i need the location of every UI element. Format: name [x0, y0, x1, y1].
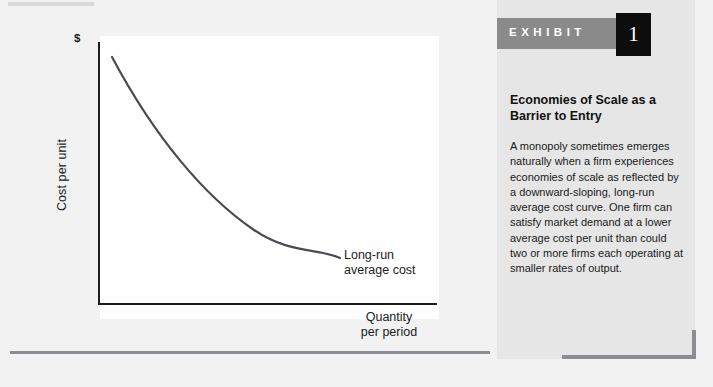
- exhibit-title: Economies of Scale as a Barrier to Entry: [510, 92, 680, 124]
- exhibit-body-text: A monopoly sometimes emerges naturally w…: [510, 139, 684, 277]
- exhibit-page: $ Cost per unit Long-run average cost Qu…: [0, 0, 713, 387]
- x-axis-label-line1: Quantity: [324, 310, 454, 325]
- curve-annotation-line1: Long-run: [344, 248, 416, 263]
- top-register-mark: [8, 2, 94, 6]
- panel-edge-bottom: [562, 355, 696, 359]
- exhibit-header-label: EXHIBIT: [509, 26, 586, 38]
- bottom-divider-rule: [10, 351, 490, 354]
- long-run-average-cost-curve: [14, 18, 484, 348]
- exhibit-number-box: 1: [616, 13, 651, 56]
- x-axis-label: Quantity per period: [324, 310, 454, 340]
- curve-annotation: Long-run average cost: [344, 248, 416, 278]
- exhibit-number: 1: [616, 13, 651, 56]
- curve-annotation-line2: average cost: [344, 263, 416, 278]
- cost-curve-figure: $ Cost per unit Long-run average cost Qu…: [14, 18, 484, 348]
- x-axis-label-line2: per period: [324, 325, 454, 340]
